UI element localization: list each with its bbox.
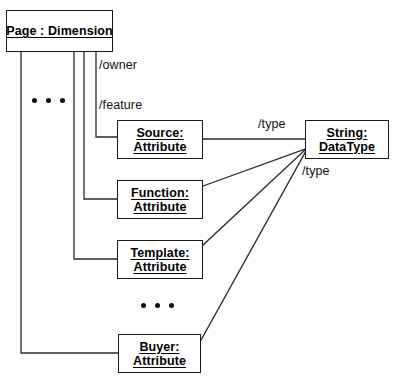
node-template-attribute[interactable]: Template: Attribute <box>117 240 203 279</box>
node-source-kind: Attribute <box>134 140 187 154</box>
node-string-datatype[interactable]: String: DataType <box>305 120 389 159</box>
edge-label-feature: /feature <box>99 98 142 112</box>
ellipsis-dot <box>155 303 160 308</box>
node-template-kind: Attribute <box>134 260 187 274</box>
edge-page-function <box>84 52 117 199</box>
ellipsis-dot <box>60 98 65 103</box>
node-page-dimension[interactable]: Page : Dimension <box>6 10 113 52</box>
node-buyer-kind: Attribute <box>133 354 186 368</box>
node-string-kind: DataType <box>319 140 375 154</box>
edge-buyer-string <box>201 151 306 340</box>
node-buyer-attribute[interactable]: Buyer: Attribute <box>118 334 201 373</box>
ellipsis-dot <box>141 303 146 308</box>
edge-label-type-top: /type <box>258 117 286 131</box>
edge-label-owner: /owner <box>99 58 137 72</box>
edge-template-string <box>203 150 305 245</box>
node-page-title: Page : Dimension <box>6 24 112 38</box>
node-source-name: Source: <box>136 126 183 140</box>
node-source-attribute[interactable]: Source: Attribute <box>117 120 203 159</box>
diagram-canvas: Page : Dimension Source: Attribute Funct… <box>0 0 396 379</box>
ellipsis-dot <box>46 98 51 103</box>
ellipsis-middle-group <box>141 303 174 308</box>
node-template-name: Template: <box>130 246 189 260</box>
node-string-name: String: <box>327 126 368 140</box>
node-function-name: Function: <box>131 186 189 200</box>
edge-label-type-bottom: /type <box>302 164 330 178</box>
node-function-kind: Attribute <box>134 200 187 214</box>
node-function-attribute[interactable]: Function: Attribute <box>117 180 203 219</box>
node-buyer-name: Buyer: <box>139 340 179 354</box>
ellipsis-dot <box>32 98 37 103</box>
ellipsis-left-group <box>32 98 65 103</box>
ellipsis-dot <box>169 303 174 308</box>
